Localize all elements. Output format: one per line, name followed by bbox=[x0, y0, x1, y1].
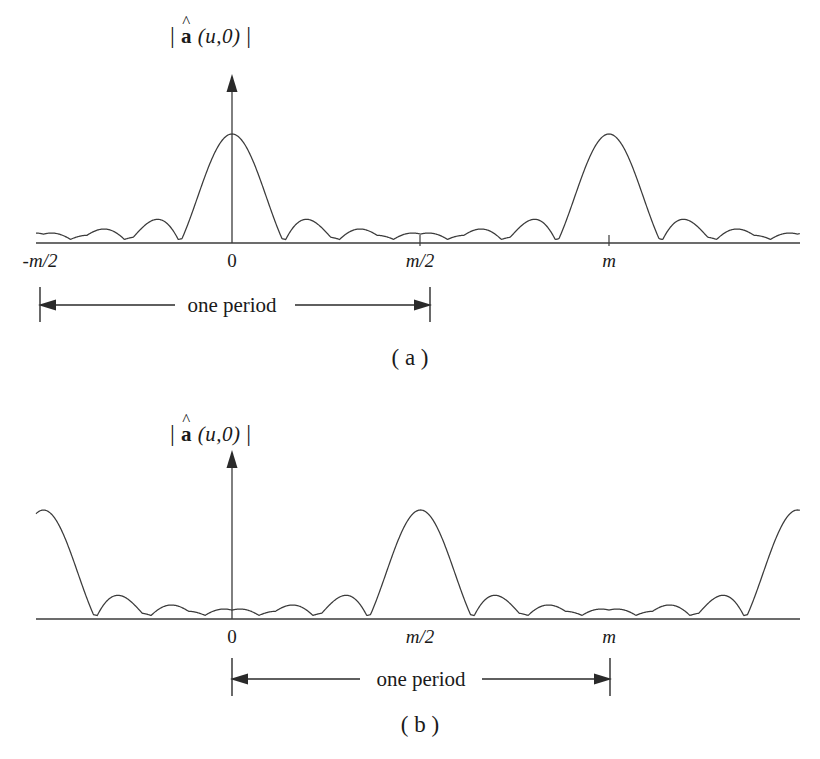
y-axis-arrowhead-icon bbox=[227, 450, 238, 468]
panel-a-caption: ( a ) bbox=[391, 345, 428, 371]
figure-container: | ^ a (u,0) | -m/20m/2m one p bbox=[0, 0, 820, 759]
magnitude-curve bbox=[36, 134, 800, 239]
tick-label: 0 bbox=[227, 250, 237, 272]
panel-a-plot bbox=[0, 0, 820, 380]
panel-a-period-label: one period bbox=[180, 293, 283, 318]
panel-b-plot bbox=[0, 380, 820, 759]
panel-b-caption: ( b ) bbox=[401, 712, 439, 738]
tick-label: m/2 bbox=[406, 250, 435, 272]
tick-label: m/2 bbox=[406, 626, 435, 648]
panel-b-curve-group bbox=[36, 510, 800, 616]
panel-a-curve-group bbox=[36, 134, 800, 239]
magnitude-curve bbox=[36, 510, 800, 616]
tick-label: m bbox=[602, 250, 616, 272]
tick-label: m bbox=[602, 626, 616, 648]
y-axis-arrowhead-icon bbox=[227, 74, 238, 92]
tick-label: -m/2 bbox=[23, 250, 58, 272]
tick-label: 0 bbox=[227, 626, 237, 648]
panel-b-period-label: one period bbox=[369, 667, 472, 692]
panel-a-tickmarks bbox=[420, 235, 609, 246]
